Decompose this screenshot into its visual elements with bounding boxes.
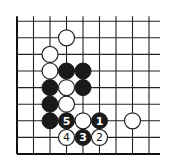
white-stone-icon [59,80,75,96]
black-stone-icon [42,96,58,112]
black-stone [42,113,58,129]
white-stone-icon [42,63,58,79]
white-stone-icon [75,113,91,129]
black-stone-icon [42,113,58,129]
move-3-black-stone: 3 [75,129,91,145]
white-stone [42,63,58,79]
move-4-white-stone: 4 [59,129,75,145]
white-stone [42,46,58,62]
black-stone-icon [75,63,91,79]
white-stone [59,30,75,46]
black-stone-icon [59,63,75,79]
white-stone-icon [59,96,75,112]
white-stone [59,96,75,112]
black-stone [75,63,91,79]
move-number-label: 1 [96,115,104,128]
white-stone-icon [42,46,58,62]
black-stone-icon [75,80,91,96]
white-stone [125,113,141,129]
move-number-label: 5 [63,115,71,128]
move-number-label: 4 [63,131,70,144]
white-stone [75,113,91,129]
move-number-label: 2 [96,131,103,144]
white-stone [59,80,75,96]
move-number-label: 3 [79,131,87,144]
white-stone-icon [125,113,141,129]
black-stone [42,80,58,96]
black-stone [59,63,75,79]
move-2-white-stone: 2 [92,129,108,145]
go-board: 51432 [0,0,170,168]
black-stone [75,80,91,96]
move-5-black-stone: 5 [59,113,75,129]
black-stone-icon [42,80,58,96]
black-stone [42,96,58,112]
move-1-black-stone: 1 [92,113,108,129]
white-stone-icon [59,30,75,46]
